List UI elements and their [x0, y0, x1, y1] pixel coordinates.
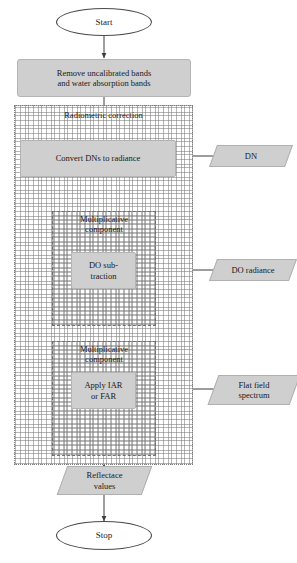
remove-bands-process: Remove uncalibrated bands and water abso… — [17, 59, 191, 97]
flowchart-diagram: Start Remove uncalibrated bands and wate… — [0, 0, 297, 563]
remove-bands-line2: and water absorption bands — [57, 78, 150, 88]
flat-field-input-line2: spectrum — [238, 390, 269, 400]
apply-iar-far-process: Apply IAR or FAR — [71, 372, 136, 409]
mult-group-1-caption-line2: component — [53, 224, 155, 234]
do-radiance-input-label: DO radiance — [231, 265, 274, 275]
mult-group-2-caption-line2: component — [53, 354, 155, 364]
remove-bands-line1: Remove uncalibrated bands — [57, 68, 151, 78]
start-terminal: Start — [56, 8, 152, 36]
reflectance-values-data: Reflectace values — [62, 466, 147, 495]
do-subtraction-line2: traction — [91, 271, 117, 281]
convert-dns-label: Convert DNs to radiance — [56, 153, 141, 163]
reflectance-values-line2: values — [94, 481, 116, 491]
radiometric-correction-caption: Radiometric correction — [15, 110, 192, 120]
start-label: Start — [96, 17, 113, 28]
dn-input-data: DN — [213, 145, 289, 167]
flat-field-input-line1: Flat field — [239, 380, 270, 390]
apply-iar-far-line1: Apply IAR — [84, 380, 122, 390]
do-radiance-input-data: DO radiance — [213, 259, 293, 281]
apply-iar-far-line2: or FAR — [91, 391, 116, 401]
do-subtraction-line1: DO sub- — [89, 260, 118, 270]
flat-field-input-data: Flat field spectrum — [213, 375, 295, 405]
reflectance-values-line1: Reflectace — [87, 470, 123, 480]
do-subtraction-process: DO sub- traction — [71, 252, 136, 289]
convert-dns-process: Convert DNs to radiance — [20, 140, 176, 177]
stop-label: Stop — [96, 530, 113, 541]
dn-input-label: DN — [245, 151, 257, 161]
mult-group-1-caption-line1: Multiplicative — [53, 214, 155, 224]
mult-group-2-caption-line1: Multiplicative — [53, 344, 155, 354]
stop-terminal: Stop — [56, 521, 152, 550]
